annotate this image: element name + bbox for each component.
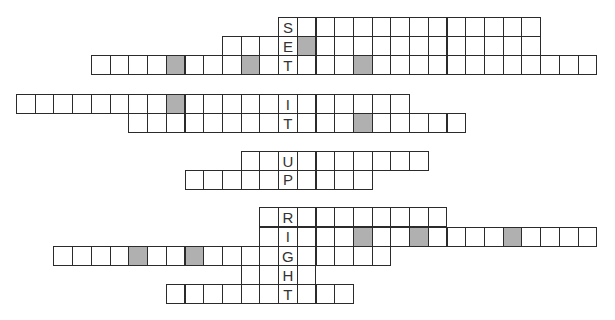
blank-cell[interactable]	[372, 36, 392, 56]
blank-cell[interactable]	[259, 55, 279, 75]
blank-cell[interactable]	[222, 94, 242, 114]
blank-cell[interactable]	[334, 94, 354, 114]
blank-cell[interactable]	[166, 246, 186, 266]
blank-cell[interactable]	[128, 94, 148, 114]
blank-cell[interactable]	[428, 36, 448, 56]
blank-cell[interactable]	[185, 113, 205, 133]
shaded-cell[interactable]	[353, 55, 373, 75]
blank-cell[interactable]	[297, 246, 317, 266]
blank-cell[interactable]	[203, 113, 223, 133]
blank-cell[interactable]	[409, 113, 429, 133]
blank-cell[interactable]	[334, 151, 354, 171]
blank-cell[interactable]	[241, 94, 261, 114]
blank-cell[interactable]	[521, 17, 541, 37]
blank-cell[interactable]	[128, 55, 148, 75]
blank-cell[interactable]	[297, 151, 317, 171]
blank-cell[interactable]	[447, 55, 467, 75]
blank-cell[interactable]	[465, 36, 485, 56]
blank-cell[interactable]	[297, 113, 317, 133]
blank-cell[interactable]	[241, 246, 261, 266]
shaded-cell[interactable]	[353, 113, 373, 133]
blank-cell[interactable]	[110, 94, 130, 114]
blank-cell[interactable]	[372, 113, 392, 133]
blank-cell[interactable]	[484, 55, 504, 75]
blank-cell[interactable]	[390, 36, 410, 56]
blank-cell[interactable]	[334, 17, 354, 37]
shaded-cell[interactable]	[185, 246, 205, 266]
blank-cell[interactable]	[465, 227, 485, 247]
blank-cell[interactable]	[241, 113, 261, 133]
blank-cell[interactable]	[484, 227, 504, 247]
blank-cell[interactable]	[409, 207, 429, 227]
blank-cell[interactable]	[334, 207, 354, 227]
blank-cell[interactable]	[372, 227, 392, 247]
blank-cell[interactable]	[503, 55, 523, 75]
blank-cell[interactable]	[316, 207, 336, 227]
blank-cell[interactable]	[484, 36, 504, 56]
blank-cell[interactable]	[353, 151, 373, 171]
blank-cell[interactable]	[428, 113, 448, 133]
blank-cell[interactable]	[409, 17, 429, 37]
blank-cell[interactable]	[372, 246, 392, 266]
blank-cell[interactable]	[222, 246, 242, 266]
blank-cell[interactable]	[447, 113, 467, 133]
blank-cell[interactable]	[390, 17, 410, 37]
blank-cell[interactable]	[447, 36, 467, 56]
blank-cell[interactable]	[503, 36, 523, 56]
blank-cell[interactable]	[316, 55, 336, 75]
blank-cell[interactable]	[259, 36, 279, 56]
blank-cell[interactable]	[259, 94, 279, 114]
blank-cell[interactable]	[521, 36, 541, 56]
blank-cell[interactable]	[259, 284, 279, 304]
blank-cell[interactable]	[91, 55, 111, 75]
blank-cell[interactable]	[203, 94, 223, 114]
blank-cell[interactable]	[428, 55, 448, 75]
blank-cell[interactable]	[540, 227, 560, 247]
blank-cell[interactable]	[521, 55, 541, 75]
blank-cell[interactable]	[316, 113, 336, 133]
blank-cell[interactable]	[241, 265, 261, 285]
blank-cell[interactable]	[72, 246, 92, 266]
blank-cell[interactable]	[91, 246, 111, 266]
shaded-cell[interactable]	[353, 227, 373, 247]
blank-cell[interactable]	[297, 55, 317, 75]
blank-cell[interactable]	[316, 284, 336, 304]
blank-cell[interactable]	[353, 94, 373, 114]
blank-cell[interactable]	[297, 207, 317, 227]
blank-cell[interactable]	[110, 55, 130, 75]
blank-cell[interactable]	[241, 36, 261, 56]
blank-cell[interactable]	[203, 246, 223, 266]
blank-cell[interactable]	[372, 17, 392, 37]
blank-cell[interactable]	[185, 55, 205, 75]
blank-cell[interactable]	[259, 265, 279, 285]
blank-cell[interactable]	[166, 113, 186, 133]
blank-cell[interactable]	[259, 207, 279, 227]
blank-cell[interactable]	[372, 207, 392, 227]
blank-cell[interactable]	[390, 151, 410, 171]
blank-cell[interactable]	[259, 113, 279, 133]
blank-cell[interactable]	[390, 55, 410, 75]
shaded-cell[interactable]	[503, 227, 523, 247]
blank-cell[interactable]	[316, 36, 336, 56]
blank-cell[interactable]	[465, 55, 485, 75]
blank-cell[interactable]	[35, 94, 55, 114]
blank-cell[interactable]	[390, 207, 410, 227]
blank-cell[interactable]	[147, 246, 167, 266]
blank-cell[interactable]	[409, 36, 429, 56]
blank-cell[interactable]	[409, 55, 429, 75]
blank-cell[interactable]	[484, 17, 504, 37]
blank-cell[interactable]	[578, 227, 598, 247]
blank-cell[interactable]	[241, 170, 261, 190]
blank-cell[interactable]	[559, 227, 579, 247]
blank-cell[interactable]	[203, 170, 223, 190]
shaded-cell[interactable]	[409, 227, 429, 247]
blank-cell[interactable]	[372, 94, 392, 114]
shaded-cell[interactable]	[166, 55, 186, 75]
blank-cell[interactable]	[334, 36, 354, 56]
blank-cell[interactable]	[447, 17, 467, 37]
blank-cell[interactable]	[316, 246, 336, 266]
blank-cell[interactable]	[16, 94, 36, 114]
blank-cell[interactable]	[390, 113, 410, 133]
blank-cell[interactable]	[203, 55, 223, 75]
blank-cell[interactable]	[334, 170, 354, 190]
